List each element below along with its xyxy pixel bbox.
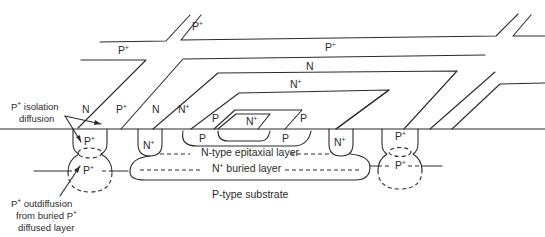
annotation-isolation-line2: diffusion [19, 113, 54, 124]
label-mid-nplus: N+ [178, 103, 190, 115]
label-isolation-left-bottom: P+ [83, 164, 94, 176]
label-left-n: N [82, 103, 90, 115]
label-top-mid-pplus: P+ [192, 20, 203, 32]
label-emitter-nplus: N+ [246, 115, 258, 127]
label-left-pplus: P+ [116, 103, 127, 115]
annotation-outdiffusion-line1: P+ outdiffusion [11, 197, 72, 209]
label-mid-n: N [152, 103, 160, 115]
label-base-p-bottom-left: P [199, 132, 206, 144]
label-isolation-right-bottom: P+ [395, 159, 406, 171]
label-base-p-bottom-right: P [282, 132, 289, 144]
emitter-region [218, 114, 270, 129]
annotation-outdiffusion-line2: from buried P+ [16, 209, 77, 221]
label-epitaxial-layer: N-type epitaxial layer [201, 146, 300, 158]
label-isolation-right-top: P+ [395, 130, 406, 142]
label-top-left-pplus: P+ [118, 44, 129, 56]
label-isolation-left-top: P+ [84, 135, 95, 147]
label-collector-left-nplus: N+ [143, 139, 155, 151]
label-base-p-top-right: P [300, 112, 307, 124]
label-substrate: P-type substrate [212, 188, 289, 200]
annotation-isolation-line1: P+ isolation [11, 100, 59, 112]
label-ring-n: N [306, 60, 314, 72]
bipolar-ic-cross-section-diagram: P+ P+ P+ N N+ N P+ N N+ P N+ P P P N+ N+… [0, 0, 545, 237]
label-top-right-pplus: P+ [325, 41, 336, 53]
emitter-n-plus-well [218, 131, 270, 141]
annotation-outdiffusion-line3: diffused layer [18, 222, 74, 233]
label-buried-layer: N+ buried layer [212, 162, 282, 174]
label-collector-right-nplus: N+ [334, 136, 346, 148]
label-base-p-top-left: P [212, 112, 219, 124]
label-ring-nplus: N+ [290, 78, 302, 90]
